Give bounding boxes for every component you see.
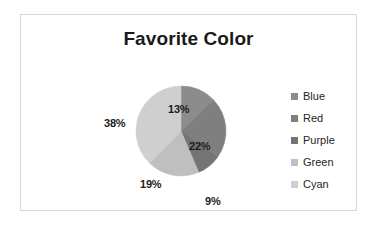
legend-item-green[interactable]: Green — [291, 151, 371, 173]
legend-item-label: Red — [303, 113, 323, 124]
pie-slice-group — [136, 86, 226, 176]
legend-item-cyan[interactable]: Cyan — [291, 173, 371, 195]
legend-item-label: Purple — [303, 135, 335, 146]
legend-item-label: Blue — [303, 91, 325, 102]
legend-item-label: Green — [303, 157, 334, 168]
pie-chart-plot-area: 13%22%9%19%38% — [21, 61, 266, 211]
legend-swatch-icon — [291, 137, 298, 144]
pie-slice-label-purple: 9% — [205, 195, 221, 207]
pie-slice-label-blue: 13% — [168, 103, 189, 115]
pie-slice-label-red: 22% — [189, 140, 210, 152]
legend-swatch-icon — [291, 115, 298, 122]
legend-swatch-icon — [291, 159, 298, 166]
legend-item-purple[interactable]: Purple — [291, 129, 371, 151]
legend-swatch-icon — [291, 93, 298, 100]
pie-slice-label-green: 19% — [140, 178, 161, 190]
legend-item-blue[interactable]: Blue — [291, 85, 371, 107]
legend-item-red[interactable]: Red — [291, 107, 371, 129]
chart-frame: Favorite Color 13%22%9%19%38% BlueRedPur… — [20, 14, 357, 211]
legend-item-label: Cyan — [303, 179, 329, 190]
chart-title: Favorite Color — [21, 28, 356, 50]
chart-legend: BlueRedPurpleGreenCyan — [291, 85, 371, 195]
pie-slice-label-cyan: 38% — [104, 117, 125, 129]
legend-swatch-icon — [291, 181, 298, 188]
